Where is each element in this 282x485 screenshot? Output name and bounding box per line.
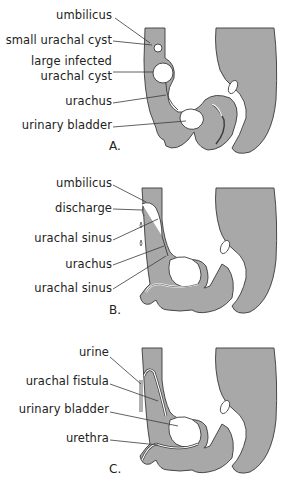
label-urinary-bladder: urinary bladder (19, 403, 109, 416)
label-urethra: urethra (66, 432, 109, 445)
label-urachal-sinus-2: urachal sinus (34, 282, 112, 295)
label-urachus: urachus (65, 258, 112, 271)
panel-c: urine urachal fistula urinary bladder ur… (0, 320, 282, 485)
panel-letter-c: C. (109, 462, 121, 476)
label-discharge: discharge (55, 202, 112, 215)
label-umbilicus: umbilicus (56, 9, 112, 22)
label-umbilicus: umbilicus (56, 177, 112, 190)
label-urachal-fistula: urachal fistula (26, 375, 109, 388)
panel-letter-b: B. (109, 303, 121, 317)
label-large-infected: large infected (31, 55, 112, 68)
label-urinary-bladder: urinary bladder (22, 119, 112, 132)
label-urachus: urachus (65, 95, 112, 108)
panel-a: umbilicus small urachal cyst large infec… (0, 0, 282, 160)
panel-b: umbilicus discharge urachal sinus urachu… (0, 160, 282, 325)
label-small-urachal-cyst: small urachal cyst (6, 34, 112, 47)
panel-letter-a: A. (109, 139, 121, 153)
label-urachal-sinus: urachal sinus (34, 232, 112, 245)
label-urachal-cyst: urachal cyst (41, 70, 112, 83)
label-urine: urine (79, 346, 109, 359)
